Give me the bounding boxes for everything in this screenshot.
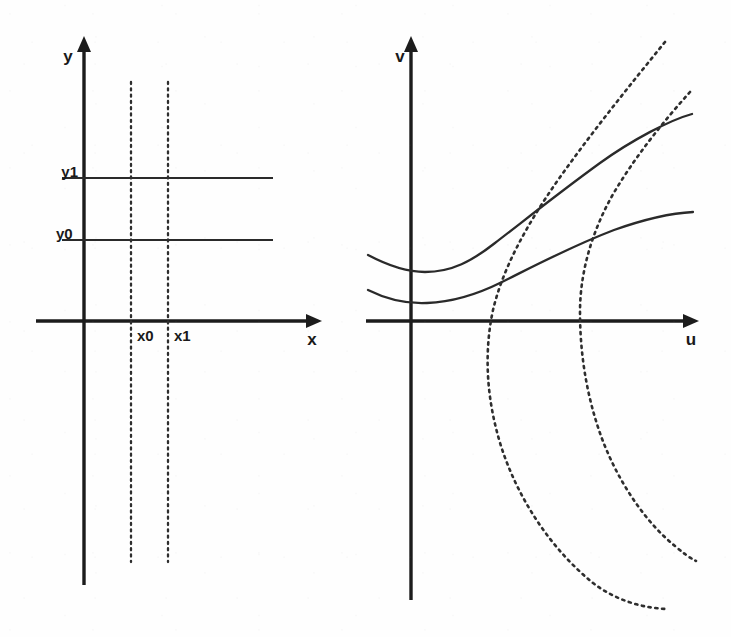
figure-canvas: y x y1 y0 x0 x1 v u xyxy=(0,0,731,637)
image-curve-y0 xyxy=(368,212,693,303)
y-axis-arrowhead-icon xyxy=(77,36,91,52)
image-curve-x1 xyxy=(580,92,696,561)
image-curve-x0 xyxy=(488,42,667,609)
right-panel-uv-plane: v u xyxy=(366,36,699,609)
u-axis-arrowhead-icon xyxy=(683,314,699,328)
image-curve-y1 xyxy=(368,114,692,272)
tick-label-x1: x1 xyxy=(174,327,191,344)
x-axis-arrowhead-icon xyxy=(306,314,322,328)
figure-root: y x y1 y0 x0 x1 v u xyxy=(0,0,731,637)
y-axis-label: y xyxy=(63,47,73,66)
v-axis-label: v xyxy=(395,47,405,66)
left-panel-xy-plane: y x y1 y0 x0 x1 xyxy=(36,36,322,585)
tick-label-y0: y0 xyxy=(56,225,73,242)
u-axis-label: u xyxy=(686,330,696,349)
x-axis-label: x xyxy=(307,330,317,349)
tick-label-x0: x0 xyxy=(137,327,154,344)
v-axis-arrowhead-icon xyxy=(404,36,418,52)
tick-label-y1: y1 xyxy=(61,163,78,180)
